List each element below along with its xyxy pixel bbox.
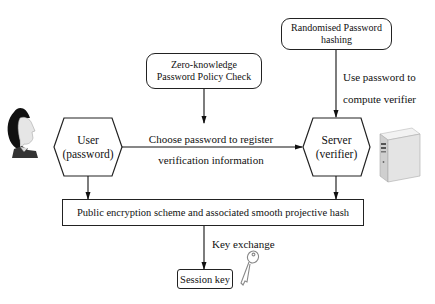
verifier-line2: compute verifier [343, 88, 416, 110]
verifier-edge-label: Use password to compute verifier [343, 66, 416, 110]
session-key-box: Session key [177, 269, 233, 289]
key-exchange-text: Key exchange [212, 238, 275, 250]
register-line2: verification information [136, 148, 286, 173]
zk-line1: Zero-knowledge [171, 59, 237, 71]
hash-line2: hashing [321, 34, 352, 46]
woman-avatar-icon [8, 108, 38, 158]
server-node: Server (verifier) [303, 118, 370, 176]
zk-policy-check-box: Zero-knowledge Password Policy Check [146, 53, 262, 89]
public-encryption-scheme-box: Public encryption scheme and associated … [62, 199, 364, 226]
verifier-line1: Use password to [343, 66, 416, 88]
user-node: User (password) [54, 118, 122, 176]
randomised-hashing-box: Randomised Password hashing [281, 18, 392, 50]
key-exchange-label: Key exchange [212, 238, 275, 251]
user-label: User [77, 133, 99, 147]
zk-line2: Password Policy Check [157, 71, 251, 83]
public-scheme-label: Public encryption scheme and associated … [77, 207, 349, 218]
server-label: Server [321, 133, 351, 147]
server-sublabel: (verifier) [316, 147, 358, 161]
register-edge-label: Choose password to register verification… [136, 131, 286, 173]
server-tower-icon [380, 128, 420, 182]
session-key-label: Session key [180, 274, 230, 285]
user-sublabel: (password) [62, 147, 113, 161]
key-icon [241, 249, 261, 285]
hash-line1: Randomised Password [291, 22, 382, 34]
